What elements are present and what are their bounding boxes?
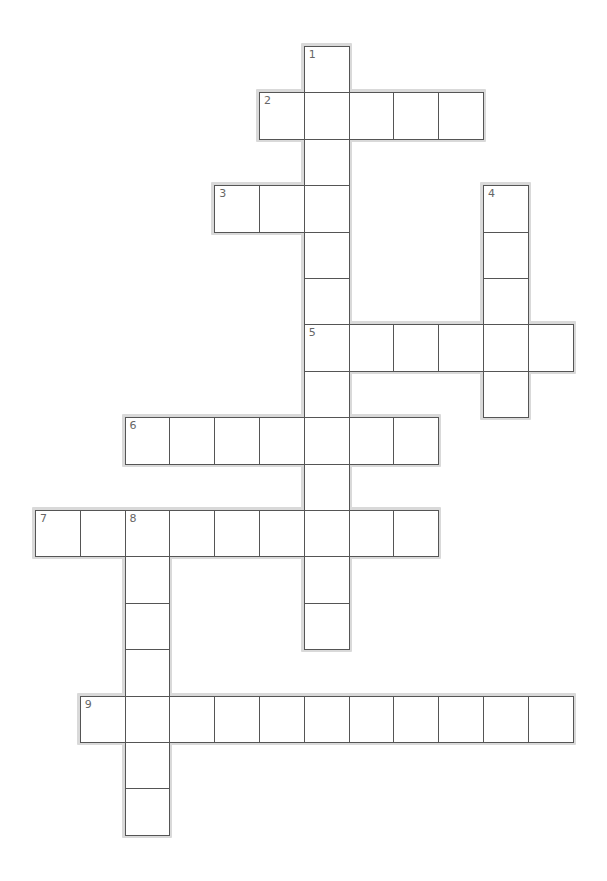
crossword-cell[interactable] (214, 417, 260, 464)
crossword-cell[interactable] (304, 232, 350, 279)
letter-input[interactable] (394, 511, 438, 556)
crossword-cell[interactable] (393, 92, 439, 139)
crossword-cell[interactable]: 7 (35, 510, 81, 557)
letter-input[interactable] (350, 325, 394, 370)
letter-input[interactable] (126, 743, 170, 788)
crossword-cell[interactable] (169, 510, 215, 557)
crossword-cell[interactable] (259, 185, 305, 232)
crossword-cell[interactable]: 2 (259, 92, 305, 139)
letter-input[interactable] (260, 93, 304, 138)
crossword-cell[interactable] (125, 696, 171, 743)
letter-input[interactable] (484, 186, 528, 231)
letter-input[interactable] (260, 186, 304, 231)
crossword-cell[interactable] (125, 788, 171, 835)
letter-input[interactable] (350, 418, 394, 463)
crossword-cell[interactable] (483, 324, 529, 371)
letter-input[interactable] (126, 557, 170, 602)
crossword-cell[interactable] (125, 742, 171, 789)
letter-input[interactable] (484, 233, 528, 278)
crossword-cell[interactable] (393, 696, 439, 743)
crossword-cell[interactable] (304, 417, 350, 464)
letter-input[interactable] (484, 697, 528, 742)
letter-input[interactable] (126, 418, 170, 463)
letter-input[interactable] (394, 418, 438, 463)
letter-input[interactable] (305, 186, 349, 231)
crossword-cell[interactable] (125, 556, 171, 603)
letter-input[interactable] (36, 511, 80, 556)
crossword-cell[interactable]: 8 (125, 510, 171, 557)
crossword-cell[interactable] (528, 696, 574, 743)
crossword-cell[interactable] (304, 696, 350, 743)
crossword-cell[interactable]: 5 (304, 324, 350, 371)
crossword-cell[interactable] (80, 510, 126, 557)
letter-input[interactable] (305, 93, 349, 138)
letter-input[interactable] (305, 140, 349, 185)
letter-input[interactable] (260, 511, 304, 556)
letter-input[interactable] (215, 697, 259, 742)
letter-input[interactable] (126, 650, 170, 695)
letter-input[interactable] (305, 557, 349, 602)
letter-input[interactable] (350, 511, 394, 556)
crossword-cell[interactable] (304, 139, 350, 186)
letter-input[interactable] (350, 697, 394, 742)
crossword-cell[interactable] (349, 510, 395, 557)
letter-input[interactable] (305, 325, 349, 370)
crossword-cell[interactable] (304, 185, 350, 232)
letter-input[interactable] (305, 511, 349, 556)
letter-input[interactable] (126, 604, 170, 649)
crossword-cell[interactable] (438, 324, 484, 371)
letter-input[interactable] (260, 697, 304, 742)
letter-input[interactable] (439, 697, 483, 742)
crossword-cell[interactable] (483, 232, 529, 279)
crossword-cell[interactable] (169, 696, 215, 743)
crossword-cell[interactable] (349, 324, 395, 371)
crossword-cell[interactable] (528, 324, 574, 371)
letter-input[interactable] (305, 465, 349, 510)
crossword-cell[interactable] (349, 696, 395, 743)
letter-input[interactable] (126, 697, 170, 742)
letter-input[interactable] (170, 418, 214, 463)
letter-input[interactable] (215, 511, 259, 556)
letter-input[interactable] (305, 47, 349, 92)
letter-input[interactable] (126, 789, 170, 834)
letter-input[interactable] (305, 604, 349, 649)
letter-input[interactable] (529, 697, 573, 742)
letter-input[interactable] (305, 279, 349, 324)
crossword-cell[interactable] (259, 510, 305, 557)
crossword-cell[interactable] (393, 324, 439, 371)
crossword-cell[interactable] (438, 92, 484, 139)
crossword-cell[interactable] (304, 371, 350, 418)
crossword-cell[interactable] (483, 696, 529, 743)
crossword-cell[interactable] (214, 510, 260, 557)
crossword-cell[interactable] (393, 417, 439, 464)
letter-input[interactable] (350, 93, 394, 138)
crossword-cell[interactable] (483, 278, 529, 325)
letter-input[interactable] (305, 372, 349, 417)
letter-input[interactable] (215, 186, 259, 231)
letter-input[interactable] (484, 279, 528, 324)
letter-input[interactable] (439, 325, 483, 370)
crossword-cell[interactable]: 1 (304, 46, 350, 93)
letter-input[interactable] (305, 418, 349, 463)
crossword-cell[interactable]: 3 (214, 185, 260, 232)
crossword-cell[interactable] (483, 371, 529, 418)
crossword-cell[interactable] (349, 92, 395, 139)
letter-input[interactable] (170, 697, 214, 742)
crossword-cell[interactable] (304, 278, 350, 325)
crossword-cell[interactable] (169, 417, 215, 464)
letter-input[interactable] (215, 418, 259, 463)
crossword-cell[interactable] (304, 464, 350, 511)
letter-input[interactable] (439, 93, 483, 138)
letter-input[interactable] (484, 372, 528, 417)
crossword-cell[interactable] (259, 696, 305, 743)
crossword-cell[interactable] (214, 696, 260, 743)
crossword-cell[interactable]: 9 (80, 696, 126, 743)
letter-input[interactable] (305, 697, 349, 742)
crossword-cell[interactable] (304, 556, 350, 603)
letter-input[interactable] (394, 325, 438, 370)
crossword-cell[interactable] (259, 417, 305, 464)
letter-input[interactable] (170, 511, 214, 556)
letter-input[interactable] (305, 233, 349, 278)
crossword-cell[interactable]: 6 (125, 417, 171, 464)
letter-input[interactable] (260, 418, 304, 463)
